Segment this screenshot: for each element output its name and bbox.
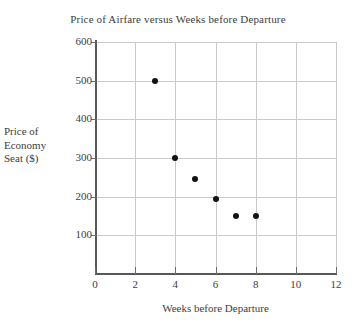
x-axis-tick <box>296 267 297 274</box>
x-axis-tick <box>135 267 136 274</box>
y-tick-label: 200 <box>52 190 92 202</box>
chart-title: Price of Airfare versus Weeks before Dep… <box>0 13 356 25</box>
x-tick-label: 0 <box>75 278 115 290</box>
scatter-chart-figure: Price of Airfare versus Weeks before Dep… <box>0 0 356 328</box>
gridline-horizontal <box>95 158 336 159</box>
x-tick-label: 8 <box>236 278 276 290</box>
x-axis-tick <box>256 267 257 274</box>
x-tick-label: 4 <box>155 278 195 290</box>
data-point <box>253 213 259 219</box>
data-point <box>152 78 158 84</box>
y-axis-title: Price of Economy Seat ($) <box>4 125 86 166</box>
y-axis-title-line-2: Economy <box>4 139 86 153</box>
gridline-vertical <box>336 42 337 274</box>
y-tick-label: 500 <box>52 74 92 86</box>
x-axis-tick <box>95 267 96 274</box>
data-point <box>233 213 239 219</box>
x-axis-title: Weeks before Departure <box>95 302 336 314</box>
x-tick-label: 12 <box>316 278 356 290</box>
x-tick-label: 2 <box>115 278 155 290</box>
x-axis-tick <box>216 267 217 274</box>
y-tick-label: 100 <box>52 228 92 240</box>
data-point <box>192 176 198 182</box>
plot-area <box>95 42 336 274</box>
data-point <box>213 196 219 202</box>
x-tick-label: 6 <box>196 278 236 290</box>
y-tick-label: 400 <box>52 112 92 124</box>
x-axis-tick <box>175 267 176 274</box>
y-axis-title-line-1: Price of <box>4 125 86 139</box>
x-tick-label: 10 <box>276 278 316 290</box>
data-point <box>172 155 178 161</box>
y-tick-label: 600 <box>52 35 92 47</box>
gridline-horizontal <box>95 119 336 120</box>
gridline-horizontal <box>95 235 336 236</box>
y-axis-title-line-3: Seat ($) <box>4 152 86 166</box>
gridline-horizontal <box>95 42 336 43</box>
x-axis-tick <box>336 267 337 274</box>
gridline-horizontal <box>95 81 336 82</box>
